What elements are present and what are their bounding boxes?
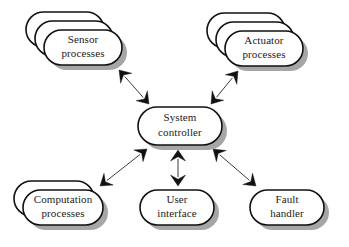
node-label-line: processes xyxy=(61,47,104,59)
edge-controller-sensor xyxy=(119,70,149,104)
node-label-line: Actuator xyxy=(244,34,284,46)
diagram-svg: SensorprocessesActuatorprocessesSystemco… xyxy=(0,0,349,247)
node-user-interface[interactable]: Userinterface xyxy=(140,190,219,230)
node-label-line: System xyxy=(164,111,197,123)
node-fault-handler[interactable]: Faulthandler xyxy=(250,190,329,230)
node-label-line: handler xyxy=(270,207,304,219)
edge-controller-actuator xyxy=(211,71,238,104)
edge-controller-user-interface xyxy=(171,150,186,186)
node-label-line: Computation xyxy=(34,193,93,205)
node-label-line: controller xyxy=(158,126,202,138)
node-label-line: interface xyxy=(157,207,196,219)
node-label-line: User xyxy=(166,193,187,205)
node-label-line: Sensor xyxy=(68,33,99,45)
node-system-controller[interactable]: Systemcontroller xyxy=(138,107,227,150)
node-actuator-processes[interactable]: Actuatorprocesses xyxy=(207,13,308,71)
edge-controller-computation xyxy=(100,149,147,186)
nodes-layer: SensorprocessesActuatorprocessesSystemco… xyxy=(14,12,329,230)
node-computation-processes[interactable]: Computationprocesses xyxy=(14,181,108,230)
edge-controller-fault-handler xyxy=(213,149,256,186)
diagram-canvas: SensorprocessesActuatorprocessesSystemco… xyxy=(0,0,349,247)
node-label-line: Fault xyxy=(275,193,298,205)
node-label-line: processes xyxy=(41,207,84,219)
node-sensor-processes[interactable]: Sensorprocesses xyxy=(26,12,127,70)
node-label-line: processes xyxy=(242,48,285,60)
